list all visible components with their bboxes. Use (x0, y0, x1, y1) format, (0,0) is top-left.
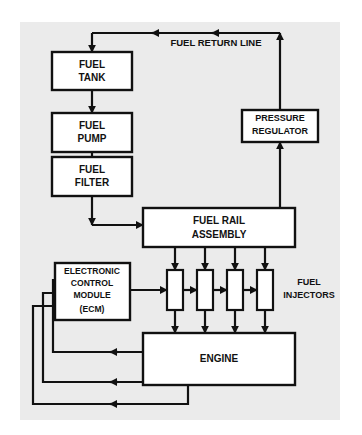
box-injector-3 (227, 270, 243, 310)
ecm-label-line3: MODULE (73, 290, 111, 300)
box-injector-2 (197, 270, 213, 310)
fuel-return-line-label: FUEL RETURN LINE (170, 37, 261, 48)
fuel-pump-label-line1: FUEL (79, 120, 105, 131)
fuel-rail-assembly-label-line2: ASSEMBLY (192, 229, 247, 240)
fuel-tank-label-line2: TANK (78, 72, 106, 83)
fuel-injectors-label-line1: FUEL (297, 277, 321, 287)
ecm-label-line2: CONTROL (71, 278, 114, 288)
box-injector-4 (257, 270, 273, 310)
fuel-pump-label-line2: PUMP (78, 133, 107, 144)
diagram-page: FUEL TANK FUEL PUMP FUEL FILTER PRESSURE… (0, 0, 362, 435)
fuel-rail-assembly-label-line1: FUEL RAIL (193, 215, 245, 226)
fuel-injectors-label-line2: INJECTORS (283, 290, 334, 300)
box-injector-1 (167, 270, 183, 310)
ecm-label-line4: (ECM) (80, 304, 105, 314)
fuel-system-diagram: FUEL TANK FUEL PUMP FUEL FILTER PRESSURE… (0, 0, 362, 435)
fuel-tank-label-line1: FUEL (79, 59, 105, 70)
pressure-regulator-label-line2: REGULATOR (252, 126, 309, 136)
fuel-filter-label-line1: FUEL (79, 164, 105, 175)
fuel-filter-label-line2: FILTER (75, 177, 110, 188)
engine-label: ENGINE (200, 353, 239, 364)
pressure-regulator-label-line1: PRESSURE (255, 113, 305, 123)
ecm-label-line1: ELECTRONIC (64, 266, 120, 276)
